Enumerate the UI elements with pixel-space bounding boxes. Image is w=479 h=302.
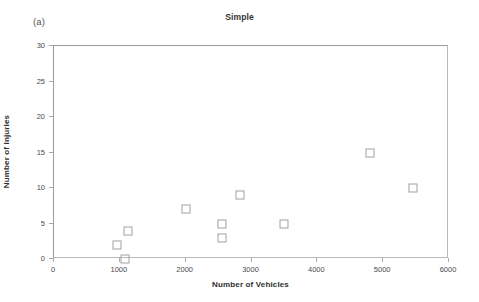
data-point xyxy=(123,226,132,235)
chart-title: Simple xyxy=(0,12,479,22)
x-tick-label: 2000 xyxy=(165,265,205,274)
x-tick-label: 1000 xyxy=(99,265,139,274)
x-tick-mark xyxy=(251,258,252,262)
y-tick-label: 30 xyxy=(19,41,45,50)
data-point xyxy=(235,191,244,200)
y-tick-label: 25 xyxy=(19,76,45,85)
y-axis-title: Number of Injuries xyxy=(0,45,14,258)
x-tick-mark xyxy=(53,258,54,262)
x-tick-mark xyxy=(448,258,449,262)
y-tick-label: 15 xyxy=(19,147,45,156)
data-point xyxy=(366,148,375,157)
x-tick-label: 3000 xyxy=(231,265,271,274)
x-tick-label: 0 xyxy=(33,265,73,274)
data-point xyxy=(408,184,417,193)
y-tick-label: 5 xyxy=(19,218,45,227)
y-tick-label: 0 xyxy=(19,254,45,263)
x-tick-label: 6000 xyxy=(428,265,468,274)
x-tick-label: 5000 xyxy=(362,265,402,274)
x-axis-title: Number of Vehicles xyxy=(53,280,448,289)
data-point xyxy=(121,255,130,264)
y-tick-label: 10 xyxy=(19,183,45,192)
y-axis-title-text: Number of Injuries xyxy=(3,115,12,188)
data-point xyxy=(280,219,289,228)
data-point xyxy=(112,240,121,249)
x-tick-mark xyxy=(316,258,317,262)
x-tick-mark xyxy=(382,258,383,262)
data-point xyxy=(181,205,190,214)
chart-figure: (a) Simple Number of Injuries Number of … xyxy=(0,0,479,302)
plot-area xyxy=(53,45,448,258)
x-tick-mark xyxy=(185,258,186,262)
data-point xyxy=(217,233,226,242)
x-tick-label: 4000 xyxy=(296,265,336,274)
y-tick-label: 20 xyxy=(19,112,45,121)
data-point xyxy=(217,219,226,228)
